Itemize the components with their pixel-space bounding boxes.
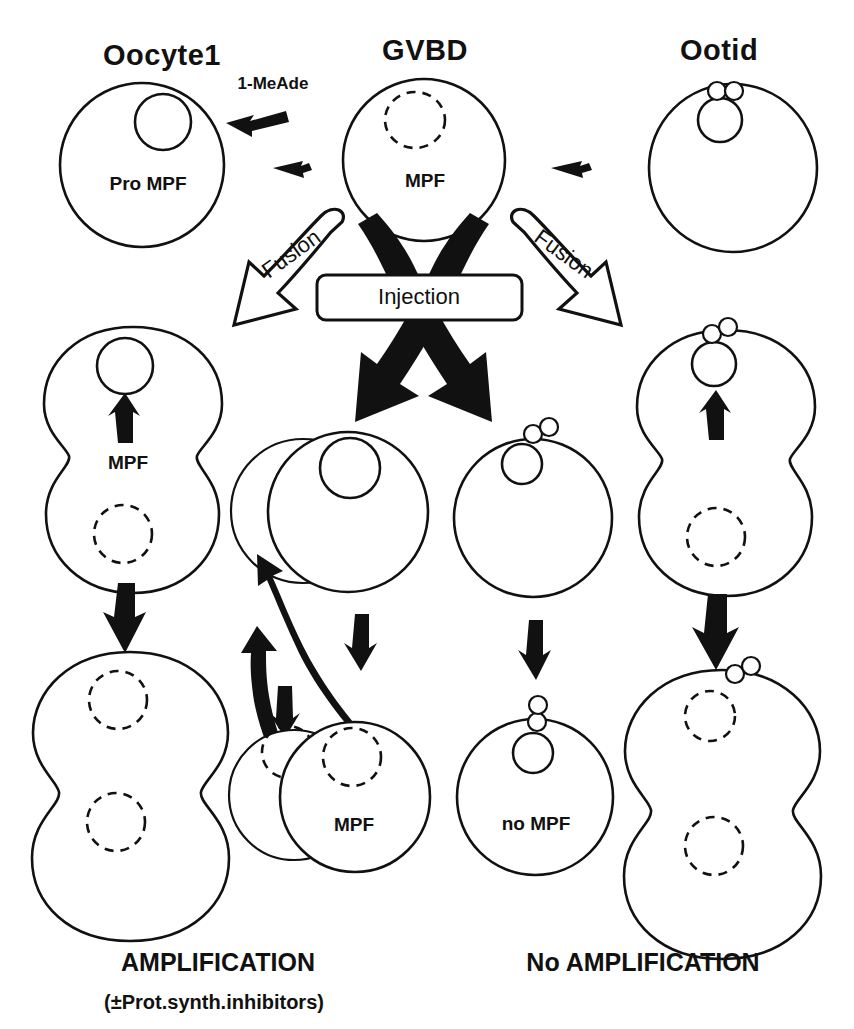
cell-gvbd: MPF — [343, 79, 505, 241]
polar-body-2 — [725, 82, 743, 100]
fused-cell-membrane — [624, 670, 821, 959]
cell-bottom-no-mpf: no MPF — [457, 696, 613, 875]
column-title-gvbd: GVBD — [382, 34, 468, 66]
down-arrow-icon-center — [344, 614, 377, 671]
stimulus-label-1-meade: 1-MeAde — [238, 74, 309, 93]
step-arrow-right-icon-2 — [551, 161, 592, 178]
pathway-diagram-svg: Pro MPF MPF — [0, 0, 854, 1029]
germinal-vesicle-nucleus — [135, 94, 191, 150]
cell-left-fusion-product: MPF — [44, 327, 222, 593]
polar-body-2 — [719, 318, 737, 336]
step-arrow-right-icon-1 — [273, 161, 312, 178]
cell-membrane — [280, 722, 430, 872]
down-arrow-icon-right — [692, 594, 739, 670]
column-title-oocyte1: Oocyte1 — [103, 39, 221, 71]
gvbd-content-label: MPF — [405, 170, 445, 191]
conclusion-left-subtitle: (±Prot.synth.inhibitors) — [104, 991, 324, 1013]
cell-oocyte1: Pro MPF — [60, 83, 224, 247]
polar-body-2 — [540, 418, 558, 436]
female-pronucleus — [698, 98, 742, 142]
oocyte1-content-label: Pro MPF — [109, 173, 186, 194]
conclusion-right-title: No AMPLIFICATION — [526, 948, 759, 976]
cell-center-injected-ootid — [454, 418, 612, 597]
column-title-ootid: Ootid — [680, 34, 758, 66]
cell-membrane — [343, 79, 505, 241]
cell-bottom-right-no-amplification — [624, 657, 821, 959]
bottom-no-mpf-label: no MPF — [502, 813, 571, 834]
female-pronucleus — [513, 733, 553, 773]
cell-ootid — [649, 82, 817, 252]
cell-right-fusion-product — [637, 318, 815, 596]
polar-body-2 — [742, 657, 760, 675]
polar-body-1 — [528, 713, 546, 731]
active-nucleus — [97, 338, 153, 394]
cell-bottom-left-amplified — [32, 652, 229, 941]
left-fusion-content-label: MPF — [108, 452, 148, 473]
conclusion-left-title: AMPLIFICATION — [121, 948, 315, 976]
polar-body-1 — [708, 82, 726, 100]
female-pronucleus — [692, 342, 736, 386]
bottom-center-content-label: MPF — [334, 814, 374, 835]
down-arrow-icon-center-right — [518, 620, 551, 680]
injection-label: Injection — [378, 284, 460, 309]
female-pronucleus — [502, 444, 542, 484]
injection-label-box: Injection — [317, 275, 522, 320]
cell-bottom-center-mpf: MPF — [229, 722, 430, 872]
stimulus-arrow-left-icon — [226, 111, 289, 137]
polar-body-2 — [529, 696, 547, 714]
figure-canvas: Pro MPF MPF — [0, 0, 854, 1029]
active-nucleus — [320, 438, 380, 498]
